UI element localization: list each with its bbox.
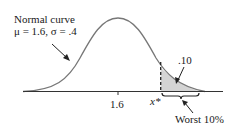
bracket-label: Worst 10% <box>175 113 224 125</box>
mean-tick-label: 1.6 <box>110 98 124 110</box>
tail-label-arrow <box>178 67 184 80</box>
worst-bracket <box>162 93 199 99</box>
curve-label-line2: μ = 1.6, σ = .4 <box>14 25 77 37</box>
tail-area-label: .10 <box>178 54 192 66</box>
curve-label-arrow <box>52 44 67 58</box>
curve-label-line1: Normal curve <box>14 13 75 25</box>
bracket-label-arrow <box>185 103 193 113</box>
cutoff-label: x* <box>150 95 160 107</box>
